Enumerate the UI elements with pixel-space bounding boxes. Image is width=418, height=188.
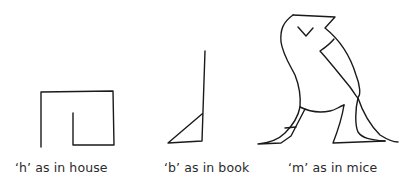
caption-book: ‘b’ as in book bbox=[164, 160, 249, 175]
caption-mice: ‘m’ as in mice bbox=[288, 160, 377, 175]
owl-glyph-icon bbox=[258, 15, 398, 144]
caption-house: ‘h’ as in house bbox=[15, 160, 108, 175]
book-glyph-icon bbox=[168, 51, 205, 143]
house-glyph-icon bbox=[41, 91, 114, 147]
hieroglyph-figure: ‘h’ as in house ‘b’ as in book ‘m’ as in… bbox=[0, 0, 418, 188]
